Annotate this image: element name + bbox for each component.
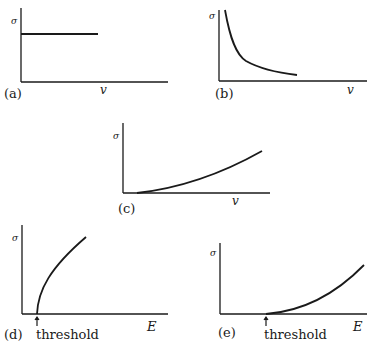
- panel-d: σ E threshold (d): [4, 225, 168, 342]
- panel-e-x-label: E: [352, 319, 363, 334]
- panel-d-threshold-label: threshold: [36, 327, 99, 342]
- panel-c-caption: (c): [118, 201, 135, 216]
- panel-e-caption: (e): [218, 325, 236, 340]
- panel-e: σ E threshold (e): [210, 243, 367, 342]
- panel-d-y-label: σ: [12, 233, 19, 243]
- panel-e-threshold-arrow-icon: [264, 317, 268, 326]
- panel-e-curve: [266, 265, 364, 314]
- panel-c-curve: [137, 151, 262, 193]
- panel-e-y-label: σ: [210, 248, 217, 258]
- panel-d-threshold-arrow-icon: [35, 317, 39, 326]
- panel-a: σ v (a): [4, 8, 168, 101]
- panel-c: σ v (c): [113, 123, 270, 216]
- panel-a-x-label: v: [100, 83, 107, 97]
- panel-b-caption: (b): [215, 86, 233, 101]
- panel-c-x-label: v: [232, 194, 239, 208]
- panel-b: σ v (b): [209, 10, 367, 101]
- panel-d-curve: [37, 237, 86, 314]
- panel-b-y-label: σ: [209, 11, 216, 21]
- panel-d-caption: (d): [4, 327, 22, 342]
- panel-d-x-label: E: [146, 319, 157, 334]
- panel-e-threshold-label: threshold: [264, 327, 327, 342]
- panel-b-curve: [225, 10, 297, 75]
- panel-b-x-label: v: [347, 83, 354, 97]
- cross-section-diagram: σ v (a) σ v (b) σ v (c) σ E threshold (d…: [0, 0, 380, 346]
- panel-a-caption: (a): [4, 86, 22, 101]
- panel-a-y-label: σ: [11, 16, 18, 26]
- panel-c-y-label: σ: [113, 131, 120, 141]
